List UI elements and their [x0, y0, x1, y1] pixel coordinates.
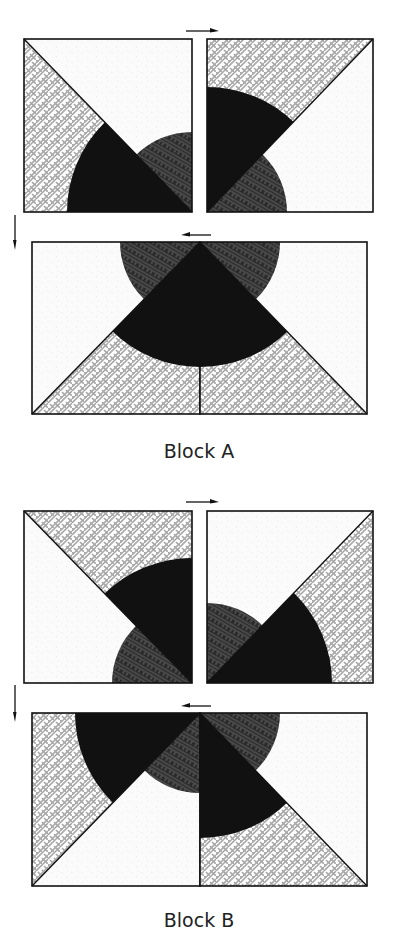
- pressing-arrow-down-icon: [13, 215, 17, 250]
- pressing-arrow-right-icon: [186, 499, 219, 504]
- units-layer: [24, 39, 373, 886]
- pressing-arrow-left-icon: [181, 703, 211, 708]
- block-b-label: Block B: [0, 909, 398, 931]
- block-a-label: Block A: [0, 440, 398, 462]
- pressing-arrow-down-icon: [13, 685, 17, 722]
- pressing-arrow-left-icon: [181, 232, 211, 237]
- pressing-arrow-right-icon: [186, 28, 219, 33]
- quilt-block-diagram: [0, 0, 398, 945]
